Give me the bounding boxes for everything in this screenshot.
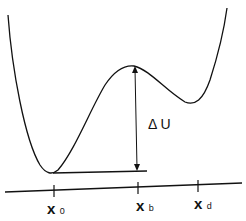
label-xb-main: x	[136, 197, 144, 214]
delta-u-arrow	[135, 69, 137, 168]
label-xb: x b	[136, 197, 154, 215]
potential-diagram: Δ U x 0 x b x d	[0, 0, 246, 221]
label-x0-sub: 0	[60, 206, 65, 216]
diagram-graphics	[0, 0, 246, 221]
x-axis	[5, 183, 242, 192]
arrow-head-bottom	[134, 164, 140, 171]
potential-curve	[8, 8, 227, 173]
label-x0: x 0	[47, 200, 65, 218]
label-xd-sub: d	[207, 201, 212, 211]
delta-u-label: Δ U	[148, 116, 171, 132]
minimum-level-line	[53, 171, 147, 173]
label-xd: x d	[194, 195, 212, 213]
label-xd-main: x	[194, 195, 202, 212]
label-x0-main: x	[47, 200, 55, 217]
label-xb-sub: b	[149, 203, 154, 213]
